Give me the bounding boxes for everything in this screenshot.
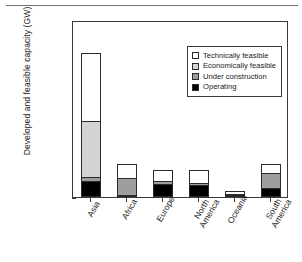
bar-segment-technically-feasible[interactable] bbox=[261, 164, 281, 173]
y-axis-title: Developed and feasible capacity (GW) bbox=[22, 0, 32, 171]
bar-segment-economically-feasible[interactable] bbox=[81, 121, 101, 177]
legend-swatch-icon bbox=[192, 63, 199, 70]
bar-segment-under-construction[interactable] bbox=[261, 173, 281, 189]
bar-asia[interactable] bbox=[81, 53, 101, 197]
legend-swatch-icon bbox=[192, 73, 199, 80]
legend-swatch-icon bbox=[192, 84, 199, 91]
legend-item-economically-feasible[interactable]: Economically feasible bbox=[192, 61, 276, 71]
chart-legend: Technically feasibleEconomically feasibl… bbox=[187, 46, 282, 97]
legend-swatch-icon bbox=[192, 52, 199, 59]
bar-segment-technically-feasible[interactable] bbox=[81, 53, 101, 121]
legend-label: Operating bbox=[203, 83, 236, 91]
y-tick-mark bbox=[72, 198, 76, 199]
chart-figure: Developed and feasible capacity (GW) 050… bbox=[0, 0, 302, 262]
legend-label: Under construction bbox=[203, 73, 267, 81]
bar-segment-technically-feasible[interactable] bbox=[117, 164, 137, 178]
legend-label: Economically feasible bbox=[203, 62, 276, 70]
legend-item-technically-feasible[interactable]: Technically feasible bbox=[192, 51, 276, 61]
legend-item-under-construction[interactable]: Under construction bbox=[192, 72, 276, 82]
legend-label: Technically feasible bbox=[203, 52, 268, 60]
bar-segment-technically-feasible[interactable] bbox=[153, 170, 173, 182]
legend-item-operating[interactable]: Operating bbox=[192, 82, 276, 92]
bar-segment-technically-feasible[interactable] bbox=[189, 170, 209, 182]
